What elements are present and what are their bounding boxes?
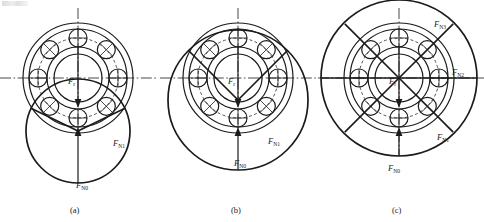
force-n0-label-c: FN0	[387, 163, 400, 174]
force-n0-arrow-c	[396, 127, 403, 156]
caption-c: (c)	[392, 205, 402, 215]
panel-c: Fr FN0 FN1 FN2 FN3	[318, 0, 484, 174]
force-n3-label-c: FN3	[433, 19, 446, 30]
force-n1-label-a: FN1	[112, 138, 125, 149]
ball-upper-right-c	[418, 41, 436, 59]
caption-b: (b)	[231, 205, 241, 215]
force-n1-label-b: FN1	[267, 136, 280, 147]
ball-lower-left-a	[41, 97, 59, 115]
force-n0-label-b: FN0	[233, 158, 246, 169]
radial-force-arrow-a	[75, 46, 82, 108]
ball-lower-right-a	[97, 97, 115, 115]
ball-lower-right-c	[418, 97, 436, 115]
ball-lower-left-c	[362, 97, 380, 115]
force-n2-label-c: FN2	[451, 67, 464, 78]
ball-upper-right-a	[97, 41, 115, 59]
ball-lower-left-b	[201, 97, 219, 115]
caption-a: (a)	[70, 205, 80, 215]
radial-force-arrow-c	[396, 46, 403, 108]
ball-upper-left-b	[201, 41, 219, 59]
force-n0-arrow-a	[75, 127, 82, 183]
ball-lower-right-b	[257, 97, 275, 115]
ball-upper-left-a	[41, 41, 59, 59]
ball-upper-left-c	[362, 41, 380, 59]
ball-upper-right-b	[257, 41, 275, 59]
bearing-load-figure: Fr FN0 FN1	[0, 0, 484, 222]
force-n1-label-c: FN1	[436, 132, 449, 143]
panel-b: Fr FN0 FN1	[160, 8, 318, 170]
panel-a: Fr FN0 FN1	[0, 8, 156, 191]
